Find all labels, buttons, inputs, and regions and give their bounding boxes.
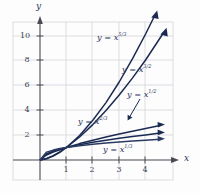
curve-label-x-1-3-exponent: 1/3 [124, 143, 132, 149]
curve-label-x-5-3-exponent: 5/3 [118, 31, 126, 37]
x-tick-label-2: 2 [85, 166, 99, 174]
y-tick-label-10: 10 [18, 32, 32, 40]
curve-label-x-2-3: y = x2/3 [78, 117, 108, 125]
curve-label-x-1-2: y = x1/2 [127, 90, 157, 98]
y-tick-label-2: 2 [20, 131, 34, 139]
curve-label-x-5-3-text: y = x [97, 32, 118, 42]
curve-label-x-2-3-text: y = x [78, 116, 99, 126]
x-tick-label-4: 4 [138, 166, 152, 174]
curve-label-x-3-2-text: y = x [122, 64, 143, 74]
curve-label-x-5-3: y = x5/3 [97, 33, 127, 41]
curve-label-x-1-2-text: y = x [127, 89, 148, 99]
curve-label-x-2-3-exponent: 2/3 [99, 115, 107, 121]
y-tick-label-6: 6 [20, 81, 34, 89]
curve-label-x-3-2: y = x3/2 [122, 65, 152, 73]
y-axis-label: y [36, 2, 41, 11]
curve-label-x-1-3: y = x1/3 [103, 145, 133, 153]
curve-label-x-1-2-exponent: 1/2 [148, 88, 156, 94]
figure-background [0, 0, 200, 193]
power-functions-figure: 10 8 6 4 2 1 2 3 4 y x y = x5/3 y = x3/2… [0, 0, 200, 193]
x-tick-label-3: 3 [112, 166, 126, 174]
curve-label-x-3-2-exponent: 3/2 [143, 63, 151, 69]
curve-label-x-1-3-text: y = x [103, 144, 124, 154]
y-tick-label-8: 8 [20, 56, 34, 64]
y-tick-label-4: 4 [20, 106, 34, 114]
plot-canvas [0, 0, 200, 193]
x-axis-label: x [184, 154, 189, 163]
x-tick-label-1: 1 [59, 166, 73, 174]
